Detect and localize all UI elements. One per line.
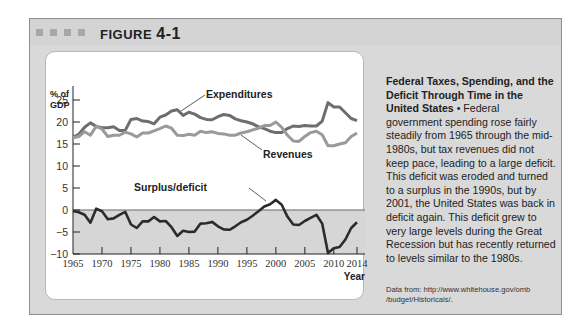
svg-text:2000: 2000 [265,258,286,269]
svg-text:5: 5 [62,182,68,194]
svg-text:−5: −5 [56,226,68,238]
svg-text:1970: 1970 [91,258,112,269]
svg-text:1965: 1965 [63,258,84,269]
svg-text:1995: 1995 [236,258,257,269]
svg-text:1990: 1990 [207,258,228,269]
svg-text:1980: 1980 [149,258,170,269]
svg-text:0: 0 [62,204,68,216]
svg-text:15: 15 [56,138,68,150]
svg-text:10: 10 [56,160,68,172]
svg-text:2010: 2010 [323,258,344,269]
line-chart: −10−505101520251965197019751980198519901… [0,0,576,333]
svg-text:Surplus/deficit: Surplus/deficit [134,181,207,193]
svg-text:2014: 2014 [347,258,369,269]
svg-text:20: 20 [56,116,68,128]
chart-annotations: ExpendituresRevenuesSurplus/deficit [134,88,313,201]
svg-text:% of: % of [50,89,70,99]
svg-text:Revenues: Revenues [263,148,313,160]
svg-text:2005: 2005 [294,258,315,269]
svg-text:Year: Year [344,271,365,282]
svg-text:1985: 1985 [178,258,199,269]
svg-text:GDP: GDP [50,100,70,110]
svg-text:1975: 1975 [120,258,141,269]
svg-text:Expenditures: Expenditures [206,88,273,100]
